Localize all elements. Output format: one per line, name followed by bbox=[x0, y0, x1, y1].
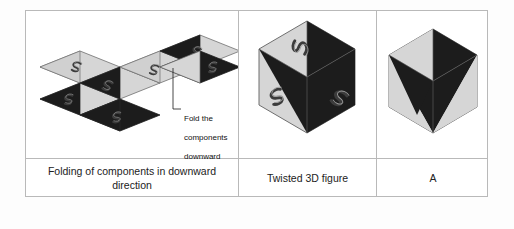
fold-annotation-line-1: Fold the bbox=[184, 114, 228, 124]
caption-twisted: Twisted 3D figure bbox=[239, 159, 376, 197]
answer-cube-illustration bbox=[377, 11, 489, 158]
fold-annotation-line-2: components bbox=[184, 133, 228, 143]
caption-net: Folding of components in downward direct… bbox=[26, 159, 238, 197]
twisted-cube-illustration bbox=[239, 11, 376, 158]
answer-cube-body bbox=[389, 29, 477, 133]
panel-twisted bbox=[239, 11, 376, 158]
panel-answer bbox=[377, 11, 489, 158]
caption-answer: A bbox=[377, 159, 489, 197]
panel-net: Fold the components downward bbox=[26, 11, 238, 158]
figure-table: Fold the components downward bbox=[25, 10, 488, 197]
twisted-cube-body bbox=[259, 21, 355, 133]
figure-root: Fold the components downward bbox=[0, 0, 514, 229]
